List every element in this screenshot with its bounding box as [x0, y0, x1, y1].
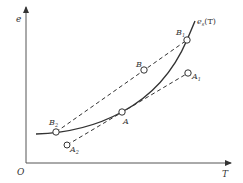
- point-a-label: A: [122, 117, 129, 126]
- point-b1-label: B1: [175, 28, 185, 38]
- diagram-canvas: e T O es(T) B1 B A1 A B2 A2: [0, 0, 243, 183]
- point-a: [119, 109, 125, 115]
- dashed-line-b2-b1: [56, 40, 187, 132]
- origin-label: O: [17, 167, 25, 177]
- curve-label: es(T): [197, 17, 216, 27]
- y-axis-label: e: [16, 14, 21, 24]
- point-a1-label: A1: [191, 72, 201, 82]
- point-a1: [185, 70, 191, 76]
- point-b2-label: B2: [48, 118, 58, 128]
- point-b-label: B: [135, 60, 142, 69]
- saturation-curve: [36, 21, 195, 134]
- point-b2: [53, 129, 59, 135]
- x-axis-label: T: [222, 169, 229, 179]
- point-a2-label: A2: [69, 145, 79, 155]
